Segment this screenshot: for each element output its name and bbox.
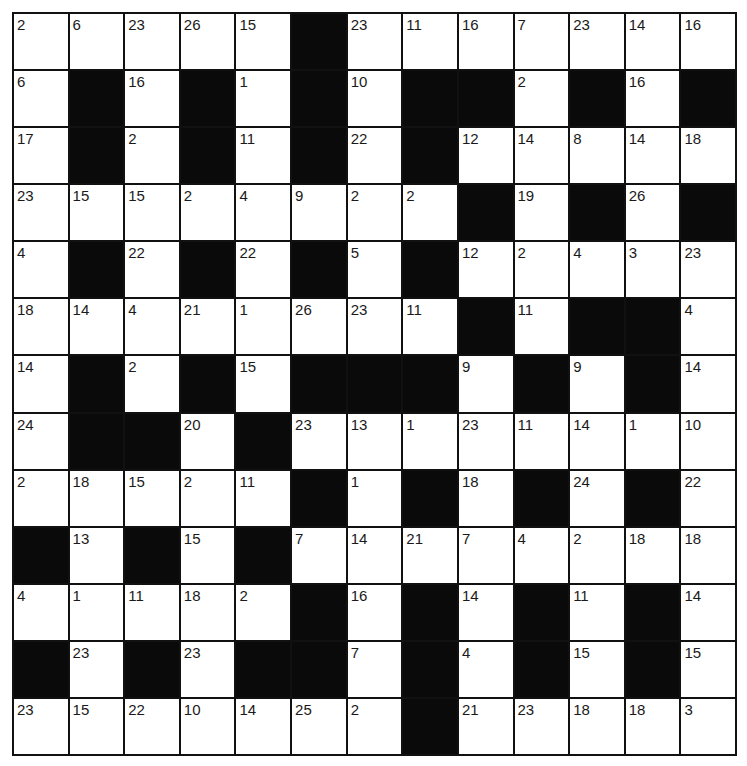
grid-cell[interactable]: 12 (459, 128, 513, 183)
grid-cell[interactable]: 6 (70, 14, 124, 69)
grid-cell[interactable]: 11 (515, 414, 569, 469)
grid-cell[interactable]: 21 (459, 699, 513, 754)
grid-cell[interactable]: 4 (236, 185, 290, 240)
grid-cell[interactable]: 4 (515, 528, 569, 583)
grid-cell[interactable]: 2 (515, 242, 569, 297)
grid-cell[interactable]: 22 (348, 128, 402, 183)
grid-cell[interactable]: 16 (348, 585, 402, 640)
grid-cell[interactable]: 4 (570, 242, 624, 297)
grid-cell[interactable]: 14 (626, 128, 680, 183)
grid-cell[interactable]: 22 (125, 699, 179, 754)
grid-cell[interactable]: 2 (181, 471, 235, 526)
grid-cell[interactable]: 26 (626, 185, 680, 240)
grid-cell[interactable]: 14 (70, 299, 124, 354)
grid-cell[interactable]: 11 (570, 585, 624, 640)
grid-cell[interactable]: 24 (570, 471, 624, 526)
grid-cell[interactable]: 23 (181, 642, 235, 697)
grid-cell[interactable]: 23 (570, 14, 624, 69)
grid-cell[interactable]: 18 (570, 699, 624, 754)
grid-cell[interactable]: 23 (70, 642, 124, 697)
grid-cell[interactable]: 8 (570, 128, 624, 183)
grid-cell[interactable]: 3 (681, 699, 735, 754)
grid-cell[interactable]: 14 (459, 585, 513, 640)
grid-cell[interactable]: 4 (681, 299, 735, 354)
grid-cell[interactable]: 4 (14, 585, 68, 640)
grid-cell[interactable]: 2 (403, 185, 457, 240)
grid-cell[interactable]: 1 (626, 414, 680, 469)
grid-cell[interactable]: 15 (236, 14, 290, 69)
grid-cell[interactable]: 15 (236, 356, 290, 411)
grid-cell[interactable]: 14 (236, 699, 290, 754)
grid-cell[interactable]: 14 (570, 414, 624, 469)
grid-cell[interactable]: 2 (348, 185, 402, 240)
grid-cell[interactable]: 23 (681, 242, 735, 297)
grid-cell[interactable]: 1 (348, 471, 402, 526)
grid-cell[interactable]: 23 (515, 699, 569, 754)
grid-cell[interactable]: 20 (181, 414, 235, 469)
grid-cell[interactable]: 15 (70, 699, 124, 754)
grid-cell[interactable]: 1 (236, 71, 290, 126)
grid-cell[interactable]: 4 (459, 642, 513, 697)
grid-cell[interactable]: 16 (681, 14, 735, 69)
grid-cell[interactable]: 18 (70, 471, 124, 526)
grid-cell[interactable]: 14 (681, 585, 735, 640)
grid-cell[interactable]: 18 (459, 471, 513, 526)
grid-cell[interactable]: 10 (181, 699, 235, 754)
grid-cell[interactable]: 26 (292, 299, 346, 354)
grid-cell[interactable]: 23 (459, 414, 513, 469)
grid-cell[interactable]: 23 (348, 14, 402, 69)
grid-cell[interactable]: 15 (125, 471, 179, 526)
grid-cell[interactable]: 13 (70, 528, 124, 583)
grid-cell[interactable]: 2 (515, 71, 569, 126)
grid-cell[interactable]: 1 (403, 414, 457, 469)
grid-cell[interactable]: 22 (681, 471, 735, 526)
grid-cell[interactable]: 4 (125, 299, 179, 354)
grid-cell[interactable]: 15 (570, 642, 624, 697)
grid-cell[interactable]: 23 (348, 299, 402, 354)
grid-cell[interactable]: 1 (236, 299, 290, 354)
grid-cell[interactable]: 23 (14, 185, 68, 240)
grid-cell[interactable]: 13 (348, 414, 402, 469)
grid-cell[interactable]: 18 (14, 299, 68, 354)
grid-cell[interactable]: 15 (125, 185, 179, 240)
grid-cell[interactable]: 2 (570, 528, 624, 583)
grid-cell[interactable]: 2 (236, 585, 290, 640)
grid-cell[interactable]: 24 (14, 414, 68, 469)
grid-cell[interactable]: 4 (14, 242, 68, 297)
grid-cell[interactable]: 16 (459, 14, 513, 69)
grid-cell[interactable]: 11 (236, 471, 290, 526)
grid-cell[interactable]: 9 (570, 356, 624, 411)
grid-cell[interactable]: 22 (236, 242, 290, 297)
grid-cell[interactable]: 14 (348, 528, 402, 583)
grid-cell[interactable]: 18 (681, 528, 735, 583)
grid-cell[interactable]: 11 (125, 585, 179, 640)
grid-cell[interactable]: 3 (626, 242, 680, 297)
grid-cell[interactable]: 11 (403, 14, 457, 69)
grid-cell[interactable]: 12 (459, 242, 513, 297)
grid-cell[interactable]: 5 (348, 242, 402, 297)
grid-cell[interactable]: 17 (14, 128, 68, 183)
grid-cell[interactable]: 14 (681, 356, 735, 411)
grid-cell[interactable]: 9 (292, 185, 346, 240)
grid-cell[interactable]: 16 (626, 71, 680, 126)
grid-cell[interactable]: 15 (181, 528, 235, 583)
grid-cell[interactable]: 23 (125, 14, 179, 69)
grid-cell[interactable]: 18 (681, 128, 735, 183)
grid-cell[interactable]: 11 (515, 299, 569, 354)
grid-cell[interactable]: 2 (125, 128, 179, 183)
grid-cell[interactable]: 15 (681, 642, 735, 697)
grid-cell[interactable]: 7 (348, 642, 402, 697)
grid-cell[interactable]: 7 (515, 14, 569, 69)
grid-cell[interactable]: 2 (125, 356, 179, 411)
grid-cell[interactable]: 14 (515, 128, 569, 183)
grid-cell[interactable]: 23 (292, 414, 346, 469)
grid-cell[interactable]: 26 (181, 14, 235, 69)
grid-cell[interactable]: 10 (348, 71, 402, 126)
grid-cell[interactable]: 9 (459, 356, 513, 411)
grid-cell[interactable]: 2 (14, 471, 68, 526)
grid-cell[interactable]: 21 (181, 299, 235, 354)
grid-cell[interactable]: 18 (181, 585, 235, 640)
grid-cell[interactable]: 10 (681, 414, 735, 469)
grid-cell[interactable]: 25 (292, 699, 346, 754)
grid-cell[interactable]: 2 (348, 699, 402, 754)
